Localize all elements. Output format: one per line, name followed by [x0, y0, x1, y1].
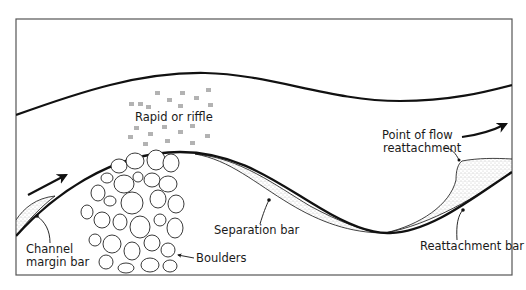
channel-diagram: Rapid or riffle Point of flow reattachme… [0, 0, 526, 290]
label-point-of-flow: Point of flow [382, 128, 453, 142]
channel-margin-bar-marker [35, 214, 39, 218]
label-reattachment-bar: Reattachment bar [420, 239, 524, 253]
label-channel: Channel [26, 242, 73, 256]
label-margin-bar: margin bar [26, 255, 90, 269]
label-reattachment: reattachment [383, 141, 462, 155]
separation-bar-marker [267, 198, 271, 202]
reattachment-point-marker [458, 159, 461, 162]
label-separation-bar: Separation bar [214, 223, 300, 237]
reattachment-bar-marker [461, 208, 465, 212]
label-boulders: Boulders [196, 251, 247, 265]
label-rapid-or-riffle: Rapid or riffle [135, 110, 213, 124]
